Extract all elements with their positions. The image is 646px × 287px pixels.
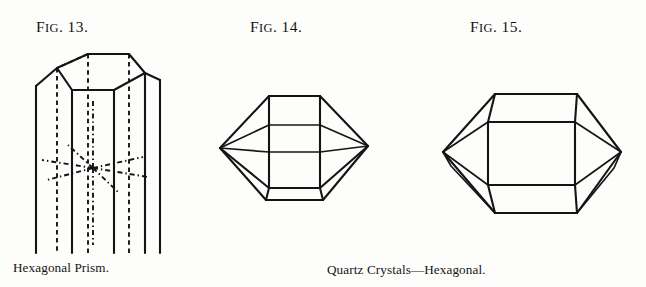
fig-15-label-ig: IG: [479, 21, 493, 35]
fig-13-label: FIG. 13.: [36, 18, 88, 36]
fig-14-label-f: F: [250, 18, 259, 35]
fig-14-label-num: . 14.: [273, 18, 302, 35]
fig-15-label-num: . 15.: [493, 18, 522, 35]
fig-14-label: FIG. 14.: [250, 18, 302, 36]
fig-14-label-ig: IG: [259, 21, 273, 35]
fig-14-drawing: [210, 80, 400, 215]
figure-plate: FIG. 13. FIG. 14. FIG. 15.: [0, 0, 646, 287]
caption-quartz-crystals: Quartz Crystals—Hexagonal.: [327, 262, 486, 278]
fig-15-drawing: [425, 80, 640, 225]
fig-13-label-ig: IG: [45, 21, 59, 35]
fig-13-label-f: F: [36, 18, 45, 35]
fig-15-label: FIG. 15.: [470, 18, 522, 36]
fig-13-label-num: . 13.: [59, 18, 88, 35]
fig-13-drawing: [0, 40, 200, 265]
caption-hexagonal-prism: Hexagonal Prism.: [13, 260, 109, 276]
fig-15-label-f: F: [470, 18, 479, 35]
